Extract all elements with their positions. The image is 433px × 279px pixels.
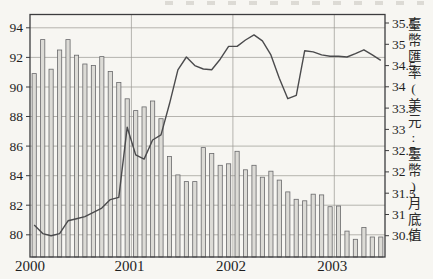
bar	[286, 192, 290, 257]
chart-canvas: 949290888684828035.53534.53433.53332.532…	[0, 0, 433, 279]
bar	[117, 83, 121, 258]
left-tick-label: 94	[10, 20, 24, 35]
left-tick-label: 92	[10, 50, 24, 65]
bar	[167, 157, 171, 258]
bar	[235, 151, 239, 257]
bar	[74, 55, 78, 257]
bar	[243, 170, 247, 257]
bar	[277, 180, 281, 257]
bar	[49, 69, 53, 257]
bar	[311, 194, 315, 257]
bar	[218, 165, 222, 257]
bar	[269, 171, 273, 257]
bar	[125, 99, 129, 257]
bar	[184, 182, 188, 257]
bar	[210, 154, 214, 258]
bar	[362, 227, 366, 257]
bar	[100, 57, 104, 257]
bar	[108, 71, 112, 257]
bar	[193, 182, 197, 257]
chart-svg: 949290888684828035.53534.53433.53332.532…	[0, 0, 433, 279]
bar	[320, 195, 324, 257]
left-tick-label: 90	[10, 80, 24, 95]
bar	[91, 66, 95, 258]
right-axis-title: 臺幣匯率(美元:臺幣)月底值	[402, 17, 424, 267]
bar	[134, 111, 138, 257]
bar	[66, 40, 70, 257]
year-label: 2003	[317, 258, 347, 274]
left-tick-label: 82	[10, 198, 24, 213]
left-tick-label: 80	[10, 227, 24, 242]
left-tick-label: 88	[10, 109, 24, 124]
bar	[303, 201, 307, 257]
scanned-chart-page: 949290888684828035.53534.53433.53332.532…	[0, 0, 433, 279]
bar	[370, 237, 374, 257]
bar	[142, 107, 146, 257]
bar	[227, 164, 231, 257]
year-label: 2000	[15, 258, 45, 274]
bar	[83, 64, 87, 257]
year-label: 2002	[216, 258, 246, 274]
bar	[328, 207, 332, 257]
year-label: 2001	[114, 258, 144, 274]
bar	[345, 231, 349, 257]
left-tick-label: 86	[10, 139, 24, 154]
bar	[159, 119, 163, 257]
bar	[353, 239, 357, 257]
bar	[32, 74, 36, 257]
bar	[294, 199, 298, 257]
bar	[151, 101, 155, 257]
bar	[176, 175, 180, 257]
bar	[252, 165, 256, 257]
bar	[201, 148, 205, 257]
bar	[260, 177, 264, 257]
bar	[336, 206, 340, 257]
left-tick-label: 84	[10, 168, 24, 183]
bar	[41, 40, 45, 257]
bar	[58, 50, 62, 257]
bar	[379, 237, 383, 257]
